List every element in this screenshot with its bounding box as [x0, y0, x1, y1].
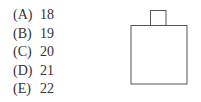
small-square: [151, 11, 167, 26]
large-square: [131, 26, 187, 85]
figure: [0, 0, 201, 102]
